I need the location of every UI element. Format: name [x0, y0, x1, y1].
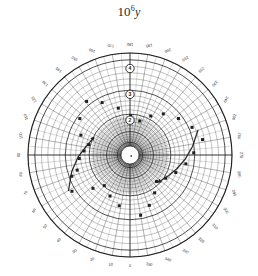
- angle-tick-label: 140: [54, 66, 63, 75]
- angle-tick-label: 80: [18, 171, 24, 177]
- angle-tick-label: 150: [70, 55, 79, 63]
- angle-tick-label: 290: [231, 189, 238, 198]
- angle-tick-label: 20: [89, 256, 96, 262]
- decade-label: 2: [129, 117, 132, 123]
- angle-tick-label: 280: [236, 171, 242, 179]
- angle-tick-label: 90: [16, 152, 21, 157]
- angle-tick-label: 220: [197, 66, 206, 75]
- angle-tick-label: 340: [164, 256, 173, 263]
- angle-tick-label: 240: [222, 95, 230, 104]
- angle-tick-label: 10: [108, 261, 114, 267]
- decade-label: 3: [129, 91, 132, 97]
- angle-tick-label: 190: [145, 43, 153, 49]
- angle-tick-label: 100: [17, 131, 23, 139]
- angle-tick-label: 260: [236, 132, 242, 140]
- angle-tick-label: 310: [211, 222, 220, 231]
- angle-tick-label: 70: [23, 189, 29, 196]
- angle-tick-label: 60: [31, 207, 38, 214]
- angle-tick-label: 130: [40, 79, 49, 88]
- angle-tick-label: 210: [181, 55, 190, 63]
- angle-tick-label: 320: [197, 236, 206, 245]
- angle-tick-label: 200: [163, 47, 172, 54]
- angle-tick-label: 230: [211, 80, 220, 89]
- angle-tick-label: 40: [55, 236, 62, 243]
- angle-tick-label: 160: [87, 47, 96, 54]
- angle-tick-label: 120: [30, 95, 38, 104]
- angle-tick-label: 0: [129, 263, 132, 268]
- angle-tick-label: 270: [239, 152, 244, 159]
- angle-tick-label: 110: [22, 113, 29, 121]
- angle-tick-label: 350: [146, 261, 154, 267]
- polar-figure: 106y 01020304050607080901001101201301401…: [0, 0, 258, 276]
- polar-grid: [28, 53, 232, 257]
- angle-tick-label: 50: [42, 222, 49, 229]
- angle-tick-label: 300: [222, 206, 230, 215]
- polar-plot-canvas: 0102030405060708090100110120130140150160…: [0, 0, 258, 276]
- decade-label: 4: [129, 65, 132, 71]
- angle-tick-label: 170: [106, 43, 114, 49]
- angle-tick-label: 180: [126, 42, 133, 47]
- angle-tick-label: 330: [181, 247, 190, 255]
- angle-tick-label: 30: [71, 247, 78, 254]
- angle-tick-label: 250: [231, 113, 238, 122]
